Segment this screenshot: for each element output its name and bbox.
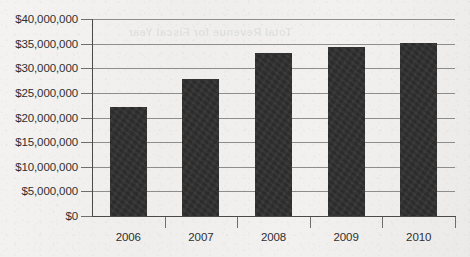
y-axis-tick-mark — [81, 142, 92, 143]
x-axis-tick-mark — [237, 217, 238, 228]
y-axis-tick-label: $30,000,000 — [0, 62, 78, 74]
y-axis-top-cap — [92, 19, 93, 25]
y-axis-tick-mark — [81, 118, 92, 119]
y-axis-tick-label: $25,000,000 — [0, 87, 78, 99]
bar-2006 — [110, 107, 147, 216]
y-axis-tick-mark — [81, 19, 92, 20]
y-axis-tick-mark — [81, 68, 92, 69]
x-axis-label-2006: 2006 — [88, 231, 168, 243]
y-axis-tick-label: $0 — [0, 210, 78, 222]
bar-2010 — [400, 43, 437, 216]
y-axis-tick-mark — [81, 93, 92, 94]
bar-2008 — [255, 53, 292, 216]
x-axis-label-2010: 2010 — [379, 231, 459, 243]
y-axis-tick-mark — [81, 191, 92, 192]
x-axis-tick-mark — [310, 217, 311, 228]
x-axis-line — [92, 216, 456, 217]
bar-2009 — [328, 47, 365, 216]
gridline — [92, 19, 455, 20]
y-axis-tick-mark — [81, 167, 92, 168]
x-axis-tick-mark — [455, 217, 456, 228]
bar-chart: Total Revenue for Fiscal Year $0$5,000,0… — [0, 0, 470, 257]
x-axis-label-2008: 2008 — [234, 231, 314, 243]
y-axis-tick-label: $10,000,000 — [0, 161, 78, 173]
y-axis-tick-label: $20,000,000 — [0, 112, 78, 124]
y-axis-tick-label: $5,000,000 — [0, 185, 78, 197]
x-axis-label-2009: 2009 — [306, 231, 386, 243]
y-axis-line — [92, 19, 93, 217]
y-axis-tick-label: $15,000,000 — [0, 136, 78, 148]
page-bleed-through-text: Total Revenue for Fiscal Year — [128, 26, 292, 38]
y-axis-tick-mark — [81, 216, 92, 217]
y-axis-tick-mark — [81, 44, 92, 45]
y-axis-tick-label: $35,000,000 — [0, 38, 78, 50]
bar-2007 — [182, 79, 219, 216]
x-axis-label-2007: 2007 — [161, 231, 241, 243]
x-axis-tick-mark — [165, 217, 166, 228]
x-axis-tick-mark — [382, 217, 383, 228]
y-axis-tick-label: $40,000,000 — [0, 13, 78, 25]
